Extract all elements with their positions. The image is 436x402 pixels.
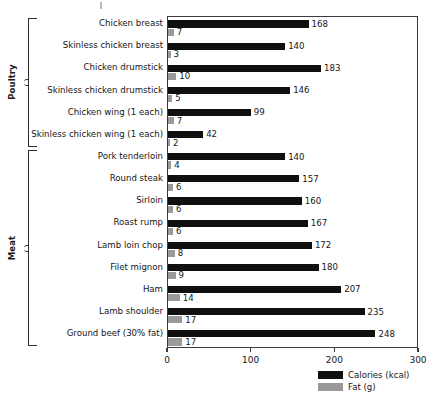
bar-value-calories: 160: [305, 197, 321, 206]
group-label-poultry: Poultry: [7, 52, 17, 112]
x-axis-tick: [250, 348, 251, 352]
category-label: Chicken drumstick: [0, 62, 163, 72]
bar-value-calories: 172: [315, 241, 331, 250]
category-label: Ground beef (30% fat): [0, 328, 163, 338]
bar-fat: [168, 139, 170, 146]
bar-value-fat: 6: [176, 205, 181, 214]
bar-value-calories: 207: [344, 285, 360, 294]
bar-value-calories: 183: [324, 64, 340, 73]
legend-item: Calories (kcal): [318, 369, 409, 380]
bar-value-calories: 140: [288, 153, 304, 162]
category-label: Lamb shoulder: [0, 306, 163, 316]
bar-calories: [168, 87, 290, 94]
bar-value-calories: 167: [311, 219, 327, 228]
bar-value-calories: 235: [368, 308, 384, 317]
bar-value-fat: 8: [178, 249, 183, 258]
legend-swatch-fat: [318, 383, 343, 391]
bar-fat: [168, 184, 173, 191]
category-label: Sirloin: [0, 195, 163, 205]
bar-value-fat: 7: [177, 117, 182, 126]
category-label: Pork tenderloin: [0, 151, 163, 161]
category-label: Filet mignon: [0, 262, 163, 272]
bar-value-fat: 4: [174, 161, 179, 170]
bar-calories: [168, 43, 285, 50]
bar-calories: [168, 197, 302, 204]
chart-legend: Calories (kcal)Fat (g): [318, 369, 409, 393]
bar-value-fat: 6: [176, 227, 181, 236]
bar-value-calories: 168: [312, 20, 328, 29]
category-label: Roast rump: [0, 217, 163, 227]
x-axis-tick-label: 300: [409, 355, 426, 365]
bar-fat: [168, 95, 172, 102]
group-bracket-poultry: [28, 18, 37, 148]
bar-calories: [168, 20, 309, 27]
bar-fat: [168, 73, 176, 80]
bar-value-fat: 5: [175, 94, 180, 103]
bar-calories: [168, 220, 308, 227]
bar-value-fat: 2: [173, 139, 178, 148]
bar-value-fat: 17: [185, 338, 196, 347]
legend-swatch-cal: [318, 371, 343, 379]
category-label: Skinless chicken drumstick: [0, 85, 163, 95]
legend-label: Fat (g): [348, 382, 376, 392]
category-label: Lamb loin chop: [0, 240, 163, 250]
bar-value-calories: 42: [206, 130, 217, 139]
bar-calories: [168, 264, 319, 271]
bar-value-calories: 99: [254, 108, 265, 117]
x-axis-tick-label: 100: [242, 355, 259, 365]
x-axis-tick-label: 0: [164, 355, 170, 365]
bar-fat: [168, 51, 171, 58]
category-label: Round steak: [0, 173, 163, 183]
plot-area: 1687140318310146599742214041576160616761…: [167, 16, 418, 348]
bar-fat: [168, 206, 173, 213]
category-label: Skinless chicken breast: [0, 40, 163, 50]
bar-fat: [168, 250, 175, 257]
bar-value-fat: 17: [185, 316, 196, 325]
bar-value-fat: 3: [174, 50, 179, 59]
bar-value-fat: 6: [176, 183, 181, 192]
x-axis-tick: [417, 348, 418, 352]
x-axis-tick-label: 200: [326, 355, 343, 365]
bar-value-fat: 10: [179, 72, 190, 81]
bar-value-calories: 157: [302, 175, 318, 184]
bar-fat: [168, 29, 174, 36]
bar-fat: [168, 338, 182, 345]
bar-value-fat: 14: [183, 294, 194, 303]
category-label: Chicken wing (1 each): [0, 107, 163, 117]
x-axis-tick: [334, 348, 335, 352]
legend-label: Calories (kcal): [348, 370, 409, 380]
bar-calories: [168, 175, 299, 182]
category-label: Ham: [0, 284, 163, 294]
bar-fat: [168, 161, 171, 168]
bar-calories: [168, 65, 321, 72]
bar-value-calories: 248: [378, 330, 394, 339]
bar-fat: [168, 228, 173, 235]
bar-fat: [168, 117, 174, 124]
bar-value-calories: 146: [293, 86, 309, 95]
legend-item: Fat (g): [318, 381, 409, 392]
bar-value-calories: 140: [288, 42, 304, 51]
top-edge-artifact: [100, 2, 102, 9]
category-label: Chicken breast: [0, 18, 163, 28]
bar-value-fat: 9: [179, 271, 184, 280]
bar-fat: [168, 272, 176, 279]
bar-calories: [168, 242, 312, 249]
category-label: Skinless chicken wing (1 each): [0, 129, 163, 139]
bar-fat: [168, 294, 180, 301]
x-axis-tick: [166, 348, 167, 352]
bar-calories: [168, 153, 285, 160]
bar-value-fat: 7: [177, 28, 182, 37]
bar-calories: [168, 308, 365, 315]
bar-fat: [168, 316, 182, 323]
bar-calories: [168, 109, 251, 116]
bar-value-calories: 180: [322, 263, 338, 272]
bar-calories: [168, 330, 375, 337]
bar-calories: [168, 286, 341, 293]
